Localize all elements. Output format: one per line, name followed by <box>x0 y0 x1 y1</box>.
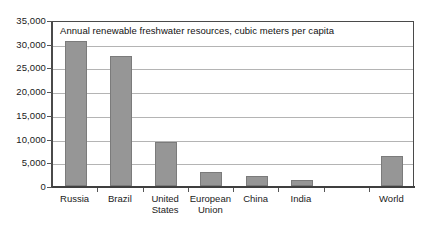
x-axis-tick-label: Russia <box>52 193 97 204</box>
x-axis-tick-label: UnitedStates <box>143 193 188 215</box>
y-axis-tick-label: 35,000 <box>2 16 46 26</box>
x-axis-tick <box>188 188 189 192</box>
bar <box>381 156 403 186</box>
x-axis-tick-label-line: United <box>143 193 188 204</box>
x-axis-tick <box>143 188 144 192</box>
bar <box>246 176 268 186</box>
x-axis-tick-label-line: World <box>369 193 414 204</box>
y-axis-tick-label: 0 <box>2 182 46 192</box>
x-axis-tick <box>324 188 325 192</box>
bar <box>65 41 87 186</box>
y-axis-tick <box>47 116 52 117</box>
bar-chart: 35,00030,00025,00020,00015,00010,0005,00… <box>0 0 424 232</box>
x-axis-tick <box>97 188 98 192</box>
x-axis-tick-label: EuropeanUnion <box>188 193 233 215</box>
y-axis-tick <box>47 92 52 93</box>
x-axis-tick-label: Brazil <box>97 193 142 204</box>
x-axis-tick-label: World <box>369 193 414 204</box>
bar <box>110 56 132 186</box>
bar <box>200 172 222 186</box>
x-axis-tick-label-line: Union <box>188 204 233 215</box>
x-axis-tick <box>233 188 234 192</box>
bar <box>155 142 177 186</box>
x-axis-tick-label-line: Brazil <box>97 193 142 204</box>
x-axis-tick <box>278 188 279 192</box>
x-axis-tick-label-line: States <box>143 204 188 215</box>
y-axis-tick <box>47 163 52 164</box>
y-axis-tick-label: 25,000 <box>2 63 46 73</box>
y-axis-tick <box>47 45 52 46</box>
y-axis-tick <box>47 21 52 22</box>
y-axis-tick-label: 10,000 <box>2 135 46 145</box>
y-axis-tick <box>47 140 52 141</box>
x-axis-tick-label-line: India <box>278 193 323 204</box>
y-axis-tick <box>47 187 52 188</box>
x-axis-tick-label-line: Russia <box>52 193 97 204</box>
x-axis-tick-label: China <box>233 193 278 204</box>
y-axis-tick-label: 30,000 <box>2 40 46 50</box>
y-axis-tick-label: 5,000 <box>2 158 46 168</box>
plot-area: Annual renewable freshwater resources, c… <box>52 21 414 187</box>
x-axis-tick <box>369 188 370 192</box>
y-axis-tick <box>47 68 52 69</box>
x-axis-tick-label-line: European <box>188 193 233 204</box>
bars <box>53 22 413 186</box>
x-axis-tick-labels: RussiaBrazilUnitedStatesEuropeanUnionChi… <box>52 193 414 229</box>
y-axis-tick-label: 15,000 <box>2 111 46 121</box>
x-axis-tick-label-line: China <box>233 193 278 204</box>
y-axis-tick-labels: 35,00030,00025,00020,00015,00010,0005,00… <box>0 0 46 232</box>
x-axis-tick-label: India <box>278 193 323 204</box>
y-axis-tick-label: 20,000 <box>2 87 46 97</box>
